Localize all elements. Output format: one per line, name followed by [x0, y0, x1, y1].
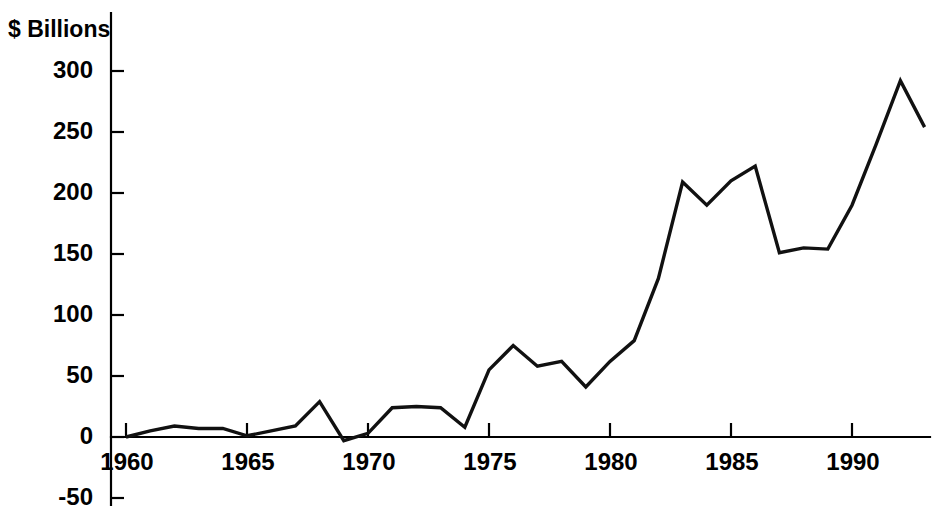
- y-tick-label: 200: [53, 178, 93, 205]
- data-series-line: [126, 81, 925, 441]
- y-tick-label: 0: [80, 422, 93, 449]
- x-tick-label: 1965: [221, 448, 274, 475]
- y-tick-label: -50: [58, 483, 93, 510]
- y-axis-title: $ Billions: [8, 16, 110, 42]
- y-tick-label: 250: [53, 117, 93, 144]
- x-tick-label: 1990: [826, 448, 879, 475]
- y-tick-label: 100: [53, 300, 93, 327]
- x-tick-label: 1960: [100, 448, 153, 475]
- y-tick-label: 300: [53, 56, 93, 83]
- y-tick-label: 150: [53, 239, 93, 266]
- line-chart: $ Billions 300250200150100500-50 1960196…: [0, 0, 935, 527]
- x-tick-label: 1980: [584, 448, 637, 475]
- x-tick-label: 1970: [342, 448, 395, 475]
- x-tick-group: 1960196519701975198019851990: [100, 423, 879, 475]
- x-tick-label: 1985: [705, 448, 758, 475]
- x-tick-label: 1975: [463, 448, 516, 475]
- y-tick-label: 50: [66, 361, 93, 388]
- y-tick-group: 300250200150100500-50: [53, 56, 124, 510]
- chart-page: $ Billions 300250200150100500-50 1960196…: [0, 0, 935, 527]
